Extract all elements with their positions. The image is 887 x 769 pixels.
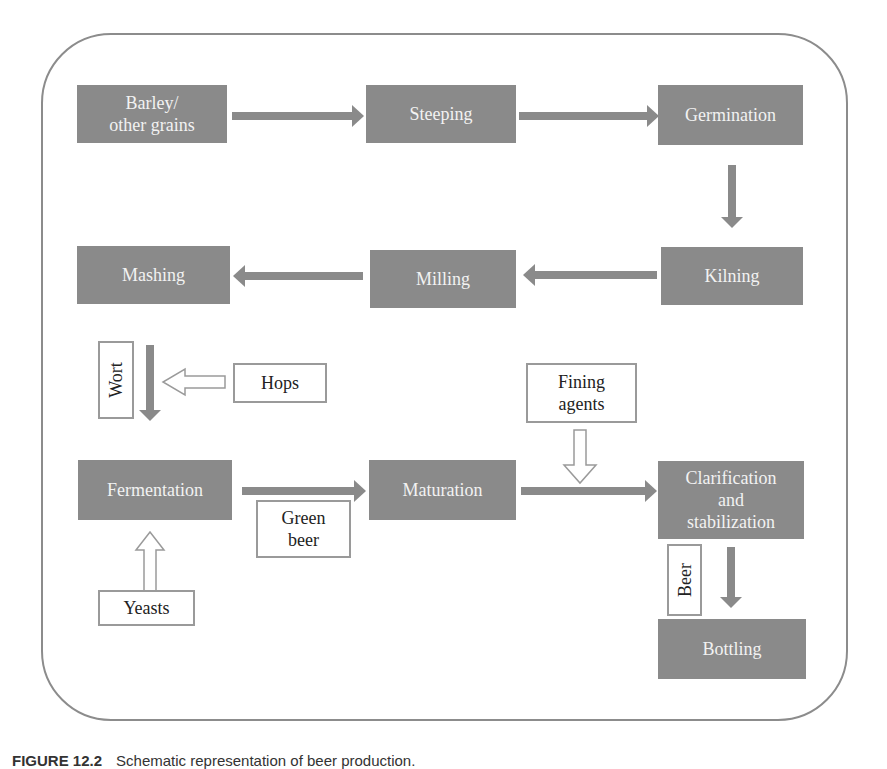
step-fermentation-label: Fermentation xyxy=(107,479,203,501)
step-barley-label: Barley/ other grains xyxy=(109,92,194,136)
flow-label-beer-text: Beer xyxy=(674,563,696,597)
step-kilning-label: Kilning xyxy=(704,265,759,287)
input-yeasts: Yeasts xyxy=(98,590,195,626)
input-hops: Hops xyxy=(233,363,327,403)
arrow-maturation-clarification xyxy=(521,480,657,502)
step-germination-label: Germination xyxy=(685,104,776,126)
step-clarification: Clarification and stabilization xyxy=(658,461,804,539)
arrow-steeping-germination xyxy=(519,105,659,127)
arrow-clarification-bottling xyxy=(720,547,742,608)
input-fining-agents-label: Fining agents xyxy=(558,371,605,415)
arrow-milling-mashing xyxy=(233,265,363,287)
arrow-germination-kilning xyxy=(721,165,743,228)
arrow-fermentation-maturation xyxy=(242,480,366,502)
input-yeasts-label: Yeasts xyxy=(123,597,169,619)
step-steeping: Steeping xyxy=(366,85,516,143)
step-bottling-label: Bottling xyxy=(702,638,761,660)
step-fermentation: Fermentation xyxy=(78,460,232,520)
step-germination: Germination xyxy=(658,85,803,145)
flow-label-green-beer-text: Green beer xyxy=(282,507,326,551)
step-bottling: Bottling xyxy=(658,619,806,679)
step-steeping-label: Steeping xyxy=(410,103,473,125)
figure-caption: FIGURE 12.2Schematic representation of b… xyxy=(12,752,415,769)
input-fining-agents: Fining agents xyxy=(526,363,637,423)
step-mashing-label: Mashing xyxy=(122,264,185,286)
step-maturation: Maturation xyxy=(369,460,516,520)
step-barley: Barley/ other grains xyxy=(77,85,227,143)
step-kilning: Kilning xyxy=(661,247,803,305)
figure-number: FIGURE 12.2 xyxy=(12,752,102,769)
figure-caption-text: Schematic representation of beer product… xyxy=(116,752,415,769)
arrow-barley-steeping xyxy=(232,105,364,127)
step-mashing: Mashing xyxy=(77,246,230,304)
input-hops-label: Hops xyxy=(261,372,299,394)
flow-label-wort-text: Wort xyxy=(105,362,127,398)
hollow-arrow-hops xyxy=(163,369,225,395)
hollow-arrow-fining xyxy=(564,430,596,483)
arrow-kilning-milling xyxy=(523,264,657,286)
arrow-mashing-fermentation xyxy=(139,345,161,421)
step-milling-label: Milling xyxy=(416,268,470,290)
step-clarification-label: Clarification and stabilization xyxy=(686,467,777,533)
step-maturation-label: Maturation xyxy=(403,479,483,501)
flow-label-green-beer: Green beer xyxy=(256,500,351,558)
step-milling: Milling xyxy=(370,250,516,308)
flow-label-beer: Beer xyxy=(667,544,702,616)
flow-label-wort: Wort xyxy=(98,341,134,419)
